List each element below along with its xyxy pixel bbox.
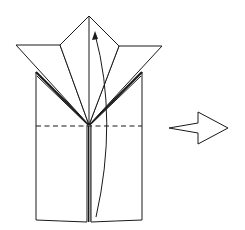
origami-diagram — [0, 0, 245, 230]
next-step-arrow-icon — [169, 112, 228, 144]
